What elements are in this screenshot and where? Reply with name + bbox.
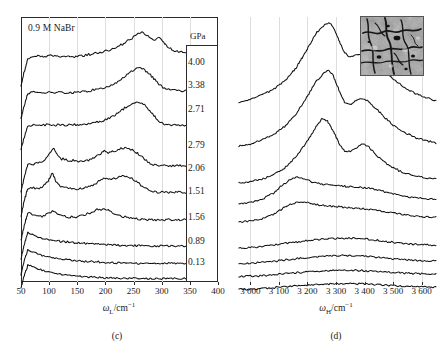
panel-c-axis-title: ωL/cm−1 <box>103 301 136 316</box>
pressure-value: 1.51 <box>188 186 205 196</box>
pressure-value: 3.38 <box>188 80 205 90</box>
x-tick-label: 150 <box>71 286 85 296</box>
x-tick <box>218 282 219 285</box>
pressure-value: 1.56 <box>188 212 205 222</box>
pressure-value: 0.89 <box>188 236 205 246</box>
caption-c: (c) <box>112 331 123 341</box>
x-tick <box>307 282 308 285</box>
raman-spectra-figure: 0.9 M NaBr GPa 4.003.382.712.792.061.511… <box>0 0 443 351</box>
x-tick-label: 3 400 <box>354 286 374 296</box>
sample-label: 0.9 M NaBr <box>28 23 75 33</box>
x-tick <box>365 282 366 285</box>
spectrum-trace <box>239 238 436 249</box>
x-tick-label: 50 <box>17 286 26 296</box>
pressure-units-header: GPa <box>190 31 206 41</box>
pressure-value: 2.06 <box>188 163 205 173</box>
x-tick <box>190 282 191 285</box>
sample-micrograph-inset <box>360 16 424 76</box>
spectrum-trace <box>239 255 436 264</box>
pressure-value: 0.13 <box>188 257 205 267</box>
x-tick <box>422 282 423 285</box>
x-tick-label: 3 200 <box>297 286 317 296</box>
x-tick <box>279 282 280 285</box>
pressure-value: 2.79 <box>188 140 205 150</box>
x-tick <box>336 282 337 285</box>
x-tick <box>77 282 78 285</box>
panel-d-axis-title: ωH/cm−1 <box>319 301 352 316</box>
pressure-value: 2.71 <box>188 104 205 114</box>
x-tick <box>49 282 50 285</box>
x-tick-label: 3 300 <box>326 286 346 296</box>
x-tick-label: 250 <box>127 286 141 296</box>
spectrum-trace <box>239 270 436 277</box>
x-tick-label: 3 000 <box>240 286 260 296</box>
x-tick <box>250 282 251 285</box>
caption-d: (d) <box>330 331 341 341</box>
x-tick-label: 3 600 <box>412 286 432 296</box>
micrograph-image <box>361 17 423 75</box>
spectrum-trace <box>239 70 436 146</box>
x-tick <box>162 282 163 285</box>
spectrum-trace <box>239 118 436 183</box>
x-tick-label: 3 100 <box>269 286 289 296</box>
x-tick-label: 3 500 <box>383 286 403 296</box>
x-tick-label: 100 <box>42 286 56 296</box>
pressure-value: 4.00 <box>188 57 205 67</box>
spectrum-trace <box>239 202 436 222</box>
x-tick <box>134 282 135 285</box>
x-tick-label: 300 <box>155 286 169 296</box>
spectrum-trace <box>239 177 436 204</box>
x-tick <box>105 282 106 285</box>
x-tick <box>393 282 394 285</box>
x-tick-label: 350 <box>183 286 197 296</box>
x-tick-label: 200 <box>99 286 113 296</box>
x-tick <box>21 282 22 285</box>
x-tick-label: 400 <box>211 286 225 296</box>
